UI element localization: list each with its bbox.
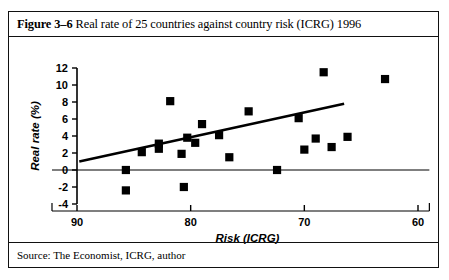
data-point xyxy=(320,68,328,76)
data-point xyxy=(215,131,223,139)
data-point xyxy=(191,139,199,147)
figure-source-bar: Source: The Economist, ICRG, author xyxy=(9,242,438,267)
data-point xyxy=(245,107,253,115)
data-point xyxy=(180,183,188,191)
figure-title-text: Real rate of 25 countries against countr… xyxy=(76,17,362,31)
data-point xyxy=(177,150,185,158)
data-point xyxy=(328,143,336,151)
y-tick-label: 6 xyxy=(62,113,68,125)
data-point xyxy=(183,134,191,142)
data-point xyxy=(273,166,281,174)
data-point xyxy=(300,146,308,154)
data-point xyxy=(198,120,206,128)
data-point xyxy=(295,114,303,122)
y-tick-label: 0 xyxy=(62,164,68,176)
y-tick-label: -2 xyxy=(58,181,68,193)
scatter-plot: -4-202468101290807060Risk (ICRG)Real rat… xyxy=(9,37,440,244)
data-point xyxy=(155,145,163,153)
data-point xyxy=(225,153,233,161)
x-tick-label: 80 xyxy=(185,216,197,228)
figure-source: Source: The Economist, ICRG, author xyxy=(9,249,185,261)
figure-title-bar: Figure 3–6 Real rate of 25 countries aga… xyxy=(9,12,438,37)
data-point xyxy=(122,186,130,194)
data-point xyxy=(166,97,174,105)
y-tick-label: 2 xyxy=(62,147,68,159)
figure-title: Figure 3–6 Real rate of 25 countries aga… xyxy=(9,17,361,32)
y-tick-label: -4 xyxy=(58,198,69,210)
chart-svg: -4-202468101290807060Risk (ICRG)Real rat… xyxy=(9,37,440,244)
data-point xyxy=(381,75,389,83)
x-tick-label: 70 xyxy=(298,216,310,228)
figure-label: Figure 3–6 xyxy=(17,17,73,31)
x-tick-label: 60 xyxy=(412,216,424,228)
y-tick-label: 4 xyxy=(62,130,69,142)
data-point xyxy=(343,133,351,141)
data-point xyxy=(312,134,320,142)
y-tick-label: 10 xyxy=(56,79,68,91)
y-axis-title: Real rate (%) xyxy=(29,101,41,171)
x-tick-label: 90 xyxy=(71,216,83,228)
figure-container: Figure 3–6 Real rate of 25 countries aga… xyxy=(8,11,439,268)
data-point xyxy=(138,148,146,156)
data-point xyxy=(122,166,130,174)
y-tick-label: 12 xyxy=(56,62,68,74)
y-tick-label: 8 xyxy=(62,96,68,108)
